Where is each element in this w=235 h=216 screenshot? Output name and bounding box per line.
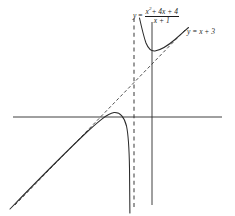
curve-left-branch <box>10 112 130 213</box>
numerator-rest: + 4x + 4 <box>151 7 178 16</box>
curve-equation-label: y = x2+ 4x + 4 x + 1 <box>133 6 179 25</box>
curve-equation-equals: = <box>138 12 142 20</box>
curve-equation-numerator: x2+ 4x + 4 <box>145 6 179 16</box>
curve-equation-lead: y <box>133 12 136 20</box>
graph-figure: y = x2+ 4x + 4 x + 1 y = x + 3 <box>0 0 235 216</box>
curve-equation-fraction: x2+ 4x + 4 x + 1 <box>145 6 179 25</box>
curve-equation-denominator: x + 1 <box>153 17 171 25</box>
slant-asymptote-label: y = x + 3 <box>187 28 215 36</box>
